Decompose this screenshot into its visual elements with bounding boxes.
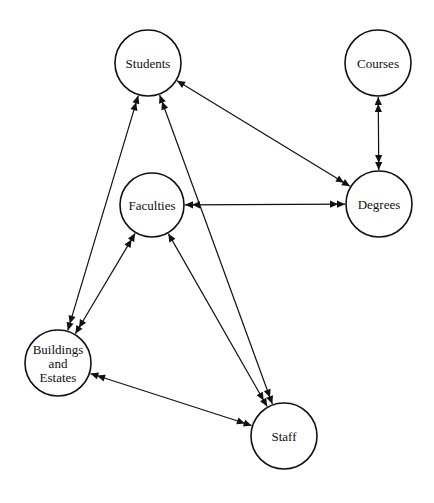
entity-faculties: Faculties xyxy=(120,173,184,237)
arrowhead-icon xyxy=(97,375,106,382)
connector-line xyxy=(185,204,345,205)
entity-label: and xyxy=(49,356,68,371)
entity-label: Faculties xyxy=(129,198,176,213)
entity-label: Courses xyxy=(357,56,399,71)
arrowhead-icon xyxy=(375,162,382,170)
edge-buildings-staff xyxy=(90,372,251,426)
arrowhead-icon xyxy=(79,319,86,328)
entity-staff: Staff xyxy=(251,403,317,469)
connector-line xyxy=(177,81,350,187)
edge-faculties-buildings xyxy=(75,233,135,333)
arrowhead-icon xyxy=(330,201,338,208)
arrowhead-icon xyxy=(192,201,200,208)
arrowhead-icon xyxy=(124,239,131,248)
arrowhead-icon xyxy=(177,81,186,88)
entity-relationship-diagram: StudentsCoursesFacultiesDegreesBuildings… xyxy=(0,0,434,503)
connector-line xyxy=(90,373,251,425)
entity-label: Estates xyxy=(40,370,77,385)
arrowhead-icon xyxy=(335,175,344,182)
arrowhead-icon xyxy=(375,155,382,163)
connector-line xyxy=(168,234,267,407)
entity-label: Students xyxy=(126,56,171,71)
entity-label: Staff xyxy=(271,429,297,444)
arrowhead-icon xyxy=(130,102,137,111)
edge-courses-degrees xyxy=(375,97,383,170)
arrowhead-icon xyxy=(161,102,168,111)
arrowhead-icon xyxy=(375,104,382,112)
arrowhead-icon xyxy=(185,201,193,208)
edge-faculties-staff xyxy=(168,234,267,407)
entity-label: Buildings xyxy=(33,342,84,357)
connector-line xyxy=(75,233,135,333)
arrowhead-icon xyxy=(260,398,267,407)
edge-faculties-degrees xyxy=(185,201,345,209)
arrowhead-icon xyxy=(168,234,175,243)
arrowhead-icon xyxy=(75,325,82,334)
arrowhead-icon xyxy=(69,315,76,324)
arrowhead-icon xyxy=(128,233,135,242)
edge-students-staff xyxy=(159,95,273,404)
entity-degrees: Degrees xyxy=(346,171,412,237)
entity-buildings: BuildingsandEstates xyxy=(25,330,91,396)
arrowhead-icon xyxy=(375,97,382,105)
arrowhead-icon xyxy=(257,392,264,401)
edge-students-degrees xyxy=(177,81,350,187)
arrowhead-icon xyxy=(236,418,245,425)
arrowhead-icon xyxy=(264,389,271,398)
entity-courses: Courses xyxy=(345,30,411,96)
arrowhead-icon xyxy=(337,201,345,208)
entity-label: Degrees xyxy=(358,197,401,212)
arrowhead-icon xyxy=(341,179,350,186)
connector-line xyxy=(160,95,273,404)
entity-students: Students xyxy=(115,30,181,96)
